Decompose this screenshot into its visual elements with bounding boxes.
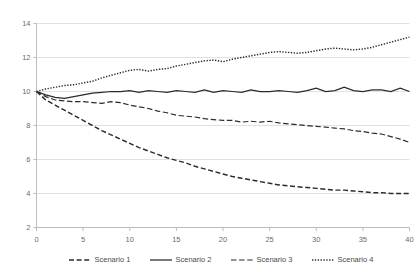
legend-label-3[interactable]: Scenario 3 — [257, 255, 293, 264]
x-tick-labels-group: 0510152025303540 — [34, 235, 413, 244]
y-tick-label: 10 — [22, 87, 30, 96]
x-tick-label: 40 — [405, 235, 413, 244]
x-tick-label: 25 — [265, 235, 273, 244]
axes-group — [34, 24, 410, 232]
series-group — [37, 37, 410, 193]
legend-label-4[interactable]: Scenario 4 — [338, 255, 374, 264]
legend-group: Scenario 1Scenario 2Scenario 3Scenario 4 — [69, 255, 373, 264]
y-tick-labels-group: 2468101214 — [22, 19, 30, 232]
legend-label-2[interactable]: Scenario 2 — [176, 255, 212, 264]
line-chart: 2468101214 0510152025303540 Scenario 1Sc… — [0, 0, 419, 272]
legend-label-1[interactable]: Scenario 1 — [95, 255, 131, 264]
series-line-4 — [37, 37, 410, 91]
x-tick-label: 0 — [34, 235, 38, 244]
chart-canvas: 2468101214 0510152025303540 Scenario 1Sc… — [0, 0, 419, 272]
x-tick-label: 20 — [219, 235, 227, 244]
x-tick-label: 10 — [126, 235, 134, 244]
y-tick-label: 6 — [26, 155, 30, 164]
y-tick-label: 12 — [22, 53, 30, 62]
y-tick-label: 4 — [26, 189, 30, 198]
x-tick-label: 15 — [172, 235, 180, 244]
y-tick-label: 2 — [26, 223, 30, 232]
y-tick-label: 14 — [22, 19, 30, 28]
x-tick-label: 35 — [359, 235, 367, 244]
series-line-3 — [37, 92, 410, 143]
x-tick-label: 30 — [312, 235, 320, 244]
y-tick-label: 8 — [26, 121, 30, 130]
series-line-2 — [37, 87, 410, 98]
series-line-1 — [37, 92, 410, 194]
x-tick-label: 5 — [81, 235, 85, 244]
